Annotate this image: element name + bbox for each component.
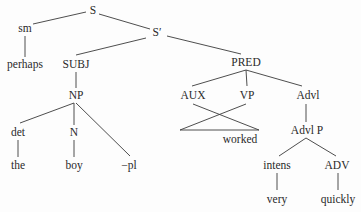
- edge-np-det: [20, 103, 74, 123]
- node-pl: −pl: [121, 160, 136, 172]
- tree-edges: [0, 0, 361, 212]
- edge-pred-advl: [246, 70, 302, 86]
- node-boy: boy: [65, 160, 82, 172]
- edge-vp-worked-crossing: [180, 104, 246, 130]
- edge-pred-aux: [192, 70, 246, 86]
- edge-aux-worked-crossing: [193, 104, 259, 130]
- edge-s-sm: [33, 12, 86, 24]
- node-perhaps: perhaps: [7, 59, 43, 71]
- node-n: N: [70, 127, 78, 139]
- edge-sprime-pred: [167, 36, 241, 54]
- node-advl: Advl: [297, 90, 320, 102]
- node-the: the: [11, 160, 25, 172]
- edge-np-pl: [76, 103, 130, 156]
- edge-sprime-subj: [76, 38, 146, 55]
- node-vp: VP: [240, 90, 255, 102]
- node-sprime: S′: [153, 27, 162, 39]
- node-adv: ADV: [325, 160, 350, 172]
- node-det: det: [11, 127, 25, 139]
- node-s: S: [90, 5, 96, 17]
- node-quickly: quickly: [321, 194, 356, 206]
- edge-s-sprime: [99, 14, 150, 29]
- node-worked: worked: [223, 134, 258, 146]
- node-very: very: [267, 194, 287, 206]
- node-advlp: Advl P: [291, 125, 323, 137]
- node-intens: intens: [263, 160, 290, 172]
- edge-advlp-intens: [279, 138, 306, 156]
- edge-pred-vp: [246, 70, 247, 86]
- node-pred: PRED: [231, 57, 260, 69]
- syntax-tree-diagram: SS′smperhapsSUBJNPdetN−pltheboyPREDAUXVP…: [0, 0, 361, 212]
- node-np: NP: [69, 90, 84, 102]
- node-aux: AUX: [181, 90, 206, 102]
- node-sm: sm: [18, 23, 31, 35]
- node-subj: SUBJ: [63, 59, 90, 71]
- edge-advlp-adv: [306, 138, 336, 156]
